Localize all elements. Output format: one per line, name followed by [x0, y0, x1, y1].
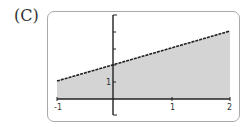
shaded-region: [57, 31, 230, 99]
y-tick-1: 1: [106, 78, 111, 87]
x-tick-1: 1: [170, 103, 175, 112]
chart-plot: -1 1 2 1: [0, 0, 249, 127]
x-tick-2: 2: [227, 103, 232, 112]
x-tick-neg1: -1: [54, 103, 62, 112]
